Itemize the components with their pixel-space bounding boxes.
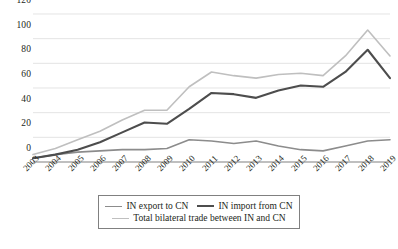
y-axis: 020406080100120 [0,0,31,172]
legend-item-total[interactable]: Total bilateral trade between IN and CN [112,213,285,224]
legend-item-import[interactable]: IN import from CN [197,201,292,212]
legend-row-1: IN export to CN IN import from CN [104,200,294,212]
legend-swatch-total-icon [112,218,129,219]
y-tick-label: 60 [0,69,31,79]
legend-item-export[interactable]: IN export to CN [105,201,188,212]
line-chart: 020406080100120 200320042005200620072008… [0,0,398,249]
legend-swatch-import-icon [197,205,214,207]
legend-row-2: Total bilateral trade between IN and CN [104,212,294,224]
y-tick-label: 40 [0,94,31,104]
y-tick-label: 80 [0,44,31,54]
legend-swatch-export-icon [105,206,122,207]
y-tick-label: 120 [0,0,31,5]
series-line [33,50,390,159]
legend: IN export to CN IN import from CN Total … [98,195,300,229]
plot-svg [33,14,390,162]
x-axis: 2003200420052006200720082009201020112012… [33,162,390,198]
legend-label-import: IN import from CN [218,201,292,212]
y-tick-label: 0 [0,143,31,153]
y-tick-label: 100 [0,20,31,30]
legend-label-total: Total bilateral trade between IN and CN [133,213,285,224]
y-tick-label: 20 [0,118,31,128]
legend-label-export: IN export to CN [126,201,188,212]
plot-area [33,14,390,162]
